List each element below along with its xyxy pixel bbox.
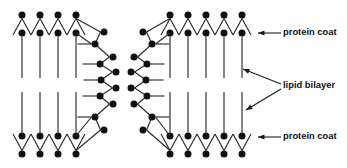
lipid-head	[37, 151, 44, 158]
lipid-head	[239, 133, 246, 140]
lipid-tail-cap-join	[156, 33, 171, 44]
protein-coat-top-label: protein coat	[283, 26, 337, 37]
lipid-head	[19, 12, 26, 19]
lipid-head	[185, 30, 192, 37]
lipid-head	[203, 133, 210, 140]
lipid-head	[131, 101, 138, 108]
lipid-head	[55, 30, 62, 37]
lipid-head	[239, 30, 246, 37]
lipid-head	[149, 114, 156, 121]
lipid-head	[97, 61, 104, 68]
lipid-head	[55, 133, 62, 140]
lipid-bilayer-label: lipid bilayer	[283, 79, 335, 90]
right-membrane	[128, 12, 252, 158]
lipid-head	[101, 29, 108, 36]
lipid-head	[98, 77, 105, 84]
lipid-head	[37, 133, 44, 140]
lipid-head	[19, 30, 26, 37]
lipid-head	[140, 29, 147, 36]
lipid-head	[92, 41, 99, 48]
lipid-head	[239, 12, 246, 19]
membrane-diagram: protein coatlipid bilayerprotein coat	[0, 0, 347, 168]
lipid-head	[203, 151, 210, 158]
lipid-head	[185, 151, 192, 158]
lipid-bilayer-arrow-head	[243, 69, 250, 74]
lipid-head	[149, 41, 156, 48]
lipid-head	[73, 12, 80, 19]
lipid-head	[203, 12, 210, 19]
lipid-tail-cap-join	[156, 117, 171, 136]
lipid-head	[221, 133, 228, 140]
lipid-bilayer-figure: protein coatlipid bilayerprotein coat	[0, 0, 347, 168]
lipid-head	[221, 30, 228, 37]
lipid-head	[37, 12, 44, 19]
lipid-head	[221, 12, 228, 19]
lipid-head	[167, 12, 174, 19]
lipid-head	[185, 133, 192, 140]
lipid-tail-cap-join	[76, 117, 92, 136]
lipid-bilayer-arrow-head	[246, 104, 253, 110]
lipid-tail-cap-join	[147, 130, 171, 151]
lipid-head	[167, 151, 174, 158]
lipid-head	[185, 12, 192, 19]
protein-coat-bottom-arrow-head	[258, 134, 265, 139]
lipid-head	[37, 30, 44, 37]
lipid-head	[131, 54, 138, 61]
lipid-head	[143, 77, 150, 84]
callout-annotations: protein coatlipid bilayerprotein coat	[243, 26, 337, 141]
lipid-head	[203, 30, 210, 37]
lipid-head	[113, 85, 120, 92]
lipid-head	[19, 151, 26, 158]
left-membrane	[13, 12, 120, 158]
lipid-tail-cap-join	[76, 130, 101, 151]
lipid-head	[110, 101, 117, 108]
protein-coat-top-arrow-head	[258, 30, 265, 35]
lipid-head	[101, 127, 108, 134]
lipid-head	[55, 151, 62, 158]
lipid-head	[113, 69, 120, 76]
lipid-head	[97, 93, 104, 100]
lipid-head	[140, 127, 147, 134]
lipid-head	[73, 151, 80, 158]
lipid-head	[110, 54, 117, 61]
lipid-head	[92, 114, 99, 121]
lipid-head	[239, 151, 246, 158]
lipid-head	[55, 12, 62, 19]
lipid-head	[128, 85, 135, 92]
lipid-head	[128, 69, 135, 76]
lipid-head	[144, 61, 151, 68]
lipid-head	[221, 151, 228, 158]
lipid-tail-cap-join	[76, 33, 92, 44]
lipid-head	[19, 133, 26, 140]
protein-coat-bottom-label: protein coat	[283, 130, 337, 141]
lipid-head	[144, 93, 151, 100]
